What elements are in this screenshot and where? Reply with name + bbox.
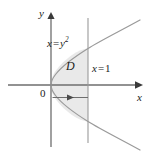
x-axis-arrowhead — [135, 81, 143, 89]
vline-eq-operator: = — [97, 62, 105, 74]
y-axis-label: y — [39, 8, 44, 19]
origin-label: 0 — [40, 88, 46, 99]
y-axis-arrowhead — [47, 12, 54, 19]
parabola-eq-rhs-exponent: 2 — [65, 36, 69, 44]
parabola-eq-operator: = — [52, 37, 60, 49]
parabola-equation-label: x=y2 — [47, 37, 69, 49]
vertical-line-equation-label: x=1 — [92, 63, 111, 74]
math-graph-svg — [0, 0, 157, 161]
region-d-label: D — [66, 60, 75, 72]
x-axis-label: x — [137, 92, 142, 103]
figure-canvas: y x 0 D x=y2 x=1 — [0, 0, 157, 161]
vline-eq-rhs: 1 — [105, 62, 111, 74]
